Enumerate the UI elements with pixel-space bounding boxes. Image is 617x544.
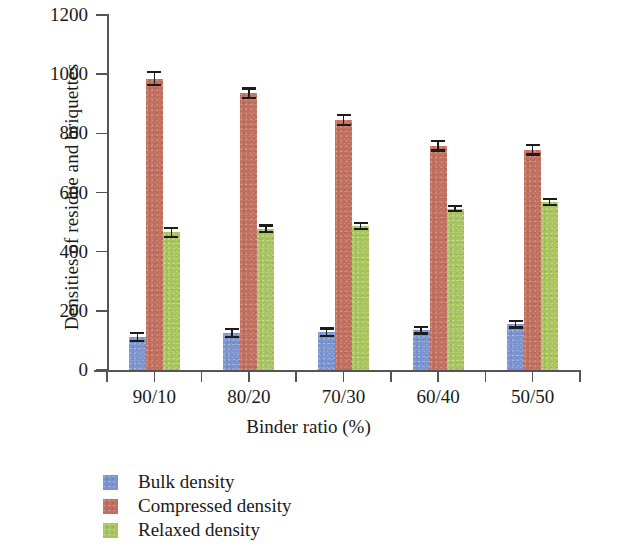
bar-80-20-bulk-density [223,333,240,370]
bar-fill [447,209,464,370]
bar-fill [318,332,335,370]
bar-fill [352,226,369,370]
legend-label-relaxed-density: Relaxed density [138,519,260,541]
error-bar-cap-top [147,71,161,73]
bar-50-50-relaxed-density [541,202,558,370]
bar-50-50-compressed-density [524,150,541,370]
error-bar-cap-top [320,327,334,329]
error-bar-cap-bottom [130,340,144,342]
error-bar-cap-bottom [431,149,445,151]
error-bar-cap-bottom [448,210,462,212]
bar-fill [507,324,524,370]
error-bar-cap-bottom [259,231,273,233]
bar-fill [413,330,430,370]
x-axis-title: Binder ratio (%) [0,416,617,438]
bar-90-10-compressed-density [146,79,163,370]
bar-fill [146,79,163,370]
bar-chart-figure: Densities of residue and briquettes 0200… [0,0,617,544]
error-bar-cap-bottom [526,153,540,155]
error-bar-cap-bottom [337,124,351,126]
error-bar-cap-top [543,198,557,200]
bar-80-20-compressed-density [240,93,257,370]
error-bar-cap-top [526,144,540,146]
error-bar-cap-bottom [147,84,161,86]
error-bar-cap-top [414,326,428,328]
bar-60-40-bulk-density [413,330,430,370]
error-bar-cap-bottom [242,97,256,99]
bar-fill [240,93,257,370]
legend-swatch-blue [103,475,118,490]
legend-item-compressed-density: Compressed density [103,494,433,518]
legend-item-relaxed-density: Relaxed density [103,518,433,542]
legend-swatch-red [103,499,118,514]
error-bar-cap-bottom [354,228,368,230]
error-bar-cap-bottom [414,332,428,334]
error-bar-cap-top [225,328,239,330]
bar-70-30-bulk-density [318,332,335,370]
bar-60-40-relaxed-density [447,209,464,370]
bar-60-40-compressed-density [430,146,447,370]
error-bar-cap-top [431,140,445,142]
legend-label-compressed-density: Compressed density [138,495,292,517]
bar-80-20-relaxed-density [257,229,274,370]
error-bar-cap-top [354,222,368,224]
bar-fill [257,229,274,370]
legend-label-bulk-density: Bulk density [138,471,235,493]
legend-swatch-green [103,523,118,538]
error-bar-cap-bottom [509,326,523,328]
error-bar-cap-top [448,205,462,207]
bar-fill [223,333,240,370]
error-bar-cap-bottom [543,204,557,206]
bar-fill [524,150,541,370]
bar-50-50-bulk-density [507,324,524,370]
bar-70-30-compressed-density [335,120,352,370]
error-bar-cap-bottom [225,336,239,338]
legend-item-bulk-density: Bulk density [103,470,433,494]
bars-layer [0,0,617,544]
error-bar-cap-bottom [164,236,178,238]
bar-70-30-relaxed-density [352,226,369,370]
error-bar-cap-top [337,114,351,116]
bar-fill [163,232,180,370]
error-bar-cap-top [130,332,144,334]
bar-fill [541,202,558,370]
bar-90-10-relaxed-density [163,232,180,370]
chart-legend: Bulk density Compressed density Relaxed … [103,470,433,542]
bar-fill [430,146,447,370]
error-bar-cap-top [164,227,178,229]
error-bar-cap-top [242,87,256,89]
error-bar-cap-top [509,320,523,322]
error-bar-cap-bottom [320,335,334,337]
bar-fill [335,120,352,370]
error-bar-cap-top [259,224,273,226]
